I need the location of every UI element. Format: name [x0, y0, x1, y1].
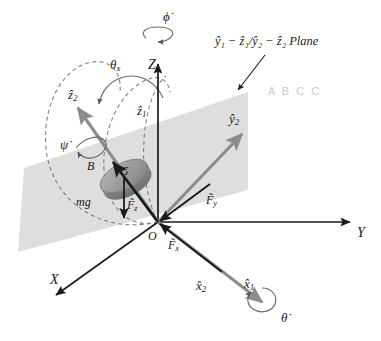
label-phi-dot: ϕ̇	[163, 10, 170, 23]
label-x-hat-1: x̂1	[244, 277, 254, 292]
label-force-Fx: F̃x	[168, 239, 179, 253]
diagram-canvas: ϕ̇ ŷ₁ − ẑ₁/ŷ₂ − ẑ₂ Plane A B C C θx Z ẑ2…	[0, 0, 381, 341]
label-Y-axis: Y	[357, 226, 365, 240]
label-force-Fz: F̃z	[127, 199, 138, 213]
label-B-body: B	[87, 160, 94, 172]
label-z-hat-1: ẑ1	[137, 104, 146, 119]
label-X-axis: X	[50, 273, 59, 287]
label-mg-weight: mg	[76, 196, 91, 208]
label-G-center-of-mass: G	[120, 165, 129, 177]
phi-dot-rotation-arrow	[143, 27, 172, 42]
label-x-hat-2: x̂2	[196, 279, 206, 294]
label-O-origin: O	[148, 230, 157, 242]
watermark-text: A B C C	[268, 85, 321, 97]
label-Z-axis: Z	[148, 58, 156, 72]
label-theta-x: θx	[110, 58, 120, 73]
label-y-hat-2: ŷ2	[229, 112, 239, 127]
label-force-Fy: F̃y	[206, 194, 217, 208]
plane-leader-line	[238, 55, 265, 90]
diagram-svg	[0, 0, 381, 341]
label-z-hat-2: ẑ2	[68, 88, 77, 103]
label-plane-annotation: ŷ₁ − ẑ₁/ŷ₂ − ẑ₂ Plane	[215, 34, 318, 49]
label-theta-dot: θ̇	[281, 311, 287, 324]
label-psi-dot: ψ̇	[60, 138, 68, 151]
